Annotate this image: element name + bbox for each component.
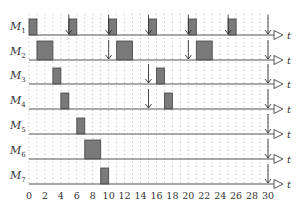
grid-dot — [44, 106, 45, 107]
grid-dot — [124, 78, 125, 79]
grid-dot — [76, 114, 77, 115]
grid-dot — [52, 114, 53, 115]
grid-dot — [52, 178, 53, 179]
grid-dot — [140, 162, 141, 163]
row-m2: M2t — [9, 40, 292, 66]
grid-dot — [156, 66, 157, 67]
grid-dot — [260, 18, 261, 19]
grid-dot — [140, 30, 141, 31]
grid-dot — [44, 102, 45, 103]
grid-dot — [196, 178, 197, 179]
grid-dot — [252, 58, 253, 59]
grid-dot — [68, 42, 69, 43]
grid-dot — [188, 86, 189, 87]
grid-dot — [36, 62, 37, 63]
grid-dot — [36, 66, 37, 67]
grid-dot — [268, 110, 269, 111]
grid-dot — [108, 138, 109, 139]
grid-dot — [132, 62, 133, 63]
grid-dot — [252, 146, 253, 147]
grid-dot — [60, 18, 61, 19]
grid-dot — [220, 42, 221, 43]
grid-dot — [132, 110, 133, 111]
grid-dot — [228, 70, 229, 71]
grid-dot — [188, 70, 189, 71]
grid-dot — [156, 102, 157, 103]
grid-dot — [236, 162, 237, 163]
grid-dot — [268, 138, 269, 139]
grid-dot — [156, 174, 157, 175]
grid-dot — [236, 50, 237, 51]
grid-dot — [44, 22, 45, 23]
grid-dot — [260, 166, 261, 167]
grid-dot — [76, 182, 77, 183]
grid-dot — [44, 38, 45, 39]
grid-dot — [140, 106, 141, 107]
grid-dot — [44, 26, 45, 27]
grid-dot — [140, 78, 141, 79]
grid-dot — [180, 50, 181, 51]
grid-dot — [180, 146, 181, 147]
grid-dot — [68, 86, 69, 87]
grid-dot — [29, 138, 30, 139]
grid-dot — [52, 66, 53, 67]
grid-dot — [132, 74, 133, 75]
grid-dot — [228, 166, 229, 167]
grid-dot — [228, 138, 229, 139]
grid-dot — [68, 170, 69, 171]
row-label: M2 — [9, 45, 26, 60]
grid-dot — [60, 138, 61, 139]
grid-dot — [100, 66, 101, 67]
grid-dot — [100, 74, 101, 75]
grid-dot — [132, 66, 133, 67]
grid-dot — [52, 146, 53, 147]
grid-dot — [92, 58, 93, 59]
grid-dot — [148, 142, 149, 143]
grid-dot — [68, 162, 69, 163]
grid-dot — [84, 54, 85, 55]
grid-dot — [44, 138, 45, 139]
grid-dot — [108, 114, 109, 115]
grid-dot — [212, 170, 213, 171]
grid-dot — [212, 86, 213, 87]
grid-dot — [220, 122, 221, 123]
grid-dot — [156, 50, 157, 51]
grid-dot — [92, 26, 93, 27]
grid-dot — [29, 94, 30, 95]
grid-dot — [204, 78, 205, 79]
grid-dot — [252, 150, 253, 151]
x-tick-label: 14 — [134, 190, 146, 201]
grid-dot — [148, 170, 149, 171]
grid-dot — [236, 62, 237, 63]
grid-dot — [156, 62, 157, 63]
grid-dot — [140, 174, 141, 175]
grid-dot — [36, 74, 37, 75]
grid-dot — [29, 110, 30, 111]
grid-dot — [180, 26, 181, 27]
grid-dot — [180, 174, 181, 175]
grid-dot — [268, 86, 269, 87]
grid-dot — [164, 150, 165, 151]
grid-dot — [60, 58, 61, 59]
grid-dot — [100, 18, 101, 19]
grid-dot — [268, 62, 269, 63]
grid-dot — [204, 174, 205, 175]
grid-dot — [84, 114, 85, 115]
grid-dot — [180, 70, 181, 71]
grid-dot — [244, 38, 245, 39]
grid-dot — [76, 94, 77, 95]
grid-dot — [252, 122, 253, 123]
grid-dot — [60, 86, 61, 87]
grid-dot — [164, 122, 165, 123]
grid-dot — [76, 90, 77, 91]
grid-dot — [260, 138, 261, 139]
grid-dot — [116, 126, 117, 127]
grid-dot — [204, 14, 205, 15]
grid-dot — [196, 122, 197, 123]
grid-dot — [29, 42, 30, 43]
grid-dot — [172, 22, 173, 23]
grid-dot — [156, 14, 157, 15]
grid-dot — [164, 174, 165, 175]
grid-dot — [36, 166, 37, 167]
grid-dot — [76, 54, 77, 55]
